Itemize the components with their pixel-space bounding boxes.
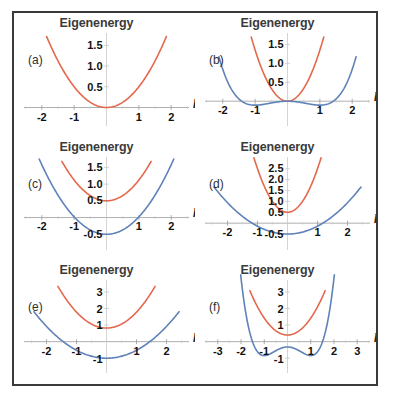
panel-letter-b: (b) [209, 53, 224, 67]
panel-grid: Eigenenergy(a)kx0.51.01.5-2-112Eigenener… [14, 13, 376, 384]
plot-d [195, 137, 376, 261]
y-tick-a-1: 1.0 [87, 60, 102, 72]
x-axis-label-f: kx [374, 331, 376, 348]
panel-c: Eigenenergy(c)kx-0.50.51.01.5-2-112 [14, 137, 195, 261]
y-tick-a-0: 0.5 [87, 81, 102, 93]
panel-letter-f: (f) [209, 300, 220, 314]
y-tick-d-2: 1.0 [268, 195, 283, 207]
x-tick-d-3: 2 [344, 226, 350, 238]
plot-b [195, 13, 376, 137]
x-tick-f-4: 2 [331, 345, 337, 357]
panel-f: Eigenenergy(f)kx-1123-3-2-1123 [195, 260, 376, 384]
y-tick-d-4: 2.0 [268, 173, 283, 185]
panel-letter-a: (a) [28, 53, 43, 67]
y-tick-f-2: 2 [277, 303, 283, 315]
y-tick-b-1: 1.0 [268, 57, 283, 69]
y-tick-b-2: 1.5 [268, 38, 283, 50]
y-tick-d-3: 1.5 [268, 184, 283, 196]
x-tick-f-2: -1 [259, 345, 269, 357]
x-tick-f-0: -3 [213, 345, 223, 357]
panel-a: Eigenenergy(a)kx0.51.01.5-2-112 [14, 13, 195, 137]
x-tick-f-1: -2 [236, 345, 246, 357]
x-tick-b-2: 1 [317, 104, 323, 116]
panel-d: Eigenenergy(d)kx-0.50.51.01.52.02.5-2-11… [195, 137, 376, 261]
x-tick-f-3: 1 [308, 345, 314, 357]
x-tick-a-1: -1 [69, 111, 79, 123]
panel-e: Eigenenergy(e)kx-1123-2-112 [14, 260, 195, 384]
x-tick-e-0: -2 [42, 345, 52, 357]
y-tick-c-3: 1.5 [87, 161, 102, 173]
y-tick-b-0: 0.5 [268, 76, 283, 88]
panel-letter-e: (e) [28, 300, 43, 314]
x-tick-c-2: 1 [136, 220, 142, 232]
y-tick-e-3: 3 [96, 286, 102, 298]
x-tick-e-2: 1 [133, 345, 139, 357]
y-tick-f-0: -1 [274, 353, 284, 365]
x-tick-e-1: -1 [72, 345, 82, 357]
plot-c [14, 137, 195, 261]
x-tick-c-1: -1 [69, 220, 79, 232]
y-tick-c-0: -0.5 [84, 228, 103, 240]
y-tick-c-2: 1.0 [87, 178, 102, 190]
x-tick-b-1: -1 [250, 104, 260, 116]
y-tick-a-2: 1.5 [87, 39, 102, 51]
x-tick-d-1: -1 [253, 226, 263, 238]
x-tick-a-3: 2 [168, 111, 174, 123]
y-tick-e-0: -1 [93, 353, 103, 365]
y-tick-f-3: 3 [277, 286, 283, 298]
plot-f [195, 260, 376, 384]
x-tick-a-0: -2 [37, 111, 47, 123]
x-tick-d-0: -2 [223, 226, 233, 238]
panel-b: Eigenenergy(b)kx0.51.01.5-2-112 [195, 13, 376, 137]
x-axis-label-d: kx [374, 212, 376, 229]
y-tick-d-1: 0.5 [268, 206, 283, 218]
x-axis-label-b: kx [374, 90, 376, 107]
x-tick-a-2: 1 [136, 111, 142, 123]
x-tick-e-3: 2 [163, 345, 169, 357]
x-tick-b-0: -2 [218, 104, 228, 116]
y-tick-d-5: 2.5 [268, 162, 283, 174]
x-tick-f-5: 3 [354, 345, 360, 357]
panel-letter-c: (c) [28, 177, 42, 191]
x-tick-b-3: 2 [349, 104, 355, 116]
x-tick-c-0: -2 [37, 220, 47, 232]
y-tick-e-1: 1 [96, 319, 102, 331]
y-tick-e-2: 2 [96, 303, 102, 315]
x-tick-d-2: 1 [314, 226, 320, 238]
panel-letter-d: (d) [209, 177, 224, 191]
y-tick-d-0: -0.5 [265, 228, 284, 240]
x-tick-c-3: 2 [168, 220, 174, 232]
plot-e [14, 260, 195, 384]
figure-frame: Eigenenergy(a)kx0.51.01.5-2-112Eigenener… [12, 11, 378, 386]
y-tick-c-1: 0.5 [87, 194, 102, 206]
y-tick-f-1: 1 [277, 319, 283, 331]
